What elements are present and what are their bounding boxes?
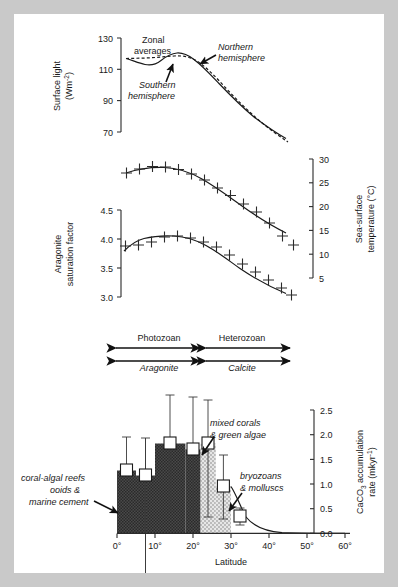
aragonite-axis bbox=[117, 210, 121, 297]
carbonate-ticklabel-15: 1.5 bbox=[320, 455, 333, 465]
carbonate-ticklabel-20: 2.0 bbox=[320, 430, 333, 440]
light-axis-title-line1: Surface light bbox=[52, 60, 62, 111]
light-axis-title-line2: (Wm-2) bbox=[63, 72, 74, 100]
carbonate-xlabel-40: 40° bbox=[262, 541, 276, 551]
band-label-aragonite: Aragonite bbox=[139, 363, 179, 373]
annot-zonal-line2: averages bbox=[134, 46, 172, 56]
carbonate-xlabel-0: 0° bbox=[113, 541, 122, 551]
annot-bryo-line1: bryozoans bbox=[240, 471, 282, 481]
marker-10-18 bbox=[164, 437, 176, 449]
carbonate-ticklabel-00: 0.0 bbox=[320, 529, 333, 539]
sst-ticklabel-25: 25 bbox=[319, 178, 329, 188]
figure-frame: 130 110 90 70 Surface light (Wm-2) Zonal… bbox=[14, 14, 384, 573]
figure-svg: 130 110 90 70 Surface light (Wm-2) Zonal… bbox=[14, 14, 384, 573]
marker-5-10 bbox=[140, 469, 152, 481]
carbonate-y-axis bbox=[310, 410, 314, 533]
panel-carbonate: 0° 10° 20° 30° 40° 50° 60° Latitude 2.5 … bbox=[21, 395, 377, 573]
sst-ticklabel-15: 15 bbox=[319, 226, 329, 236]
light-axis bbox=[117, 38, 121, 132]
aragonite-ticklabel-45: 4.5 bbox=[100, 206, 113, 216]
sst-axis-title-line1: Sea-surface bbox=[354, 195, 364, 244]
carbonate-ticklabel-05: 0.5 bbox=[320, 504, 333, 514]
carbonate-y-axis-title: CaCO3 accumulation rate (mkyr-1) bbox=[355, 430, 377, 514]
carbonate-y-axis-title-line2: rate (mkyr-1) bbox=[366, 447, 377, 496]
marker-30-35 bbox=[234, 510, 246, 522]
sst-curve bbox=[126, 167, 286, 233]
marker-0-5 bbox=[121, 464, 133, 476]
band-label-heterozoan: Heterozoan bbox=[219, 333, 266, 343]
annot-zonal-line1: Zonal bbox=[142, 35, 165, 45]
annot-northern-line1: Northern bbox=[218, 42, 253, 52]
carbonate-xlabel-30: 30° bbox=[224, 541, 238, 551]
light-ticklabel-110: 110 bbox=[99, 65, 113, 75]
carbonate-xlabel-50: 50° bbox=[300, 541, 314, 551]
aragonite-axis-title-line2: saturation factor bbox=[65, 222, 75, 287]
marker-26-30 bbox=[217, 480, 229, 492]
aragonite-markers bbox=[120, 231, 297, 301]
band-label-calcite: Calcite bbox=[228, 363, 256, 373]
annot-mixed-line2: & green algae bbox=[210, 430, 266, 440]
light-ticklabel-70: 70 bbox=[103, 128, 113, 138]
aragonite-axis-title: Aragonite saturation factor bbox=[53, 222, 75, 287]
aragonite-curve bbox=[124, 236, 286, 294]
light-ticklabel-90: 90 bbox=[103, 96, 113, 106]
aragonite-ticklabel-40: 4.0 bbox=[100, 235, 113, 245]
band-label-photozoan: Photozoan bbox=[137, 333, 180, 343]
panel-bands: Photozoan Heterozoan Aragonite Calcite bbox=[116, 333, 290, 373]
sst-ticklabel-10: 10 bbox=[319, 250, 329, 260]
sst-ticklabel-5: 5 bbox=[319, 274, 324, 284]
annot-southern-line1: Southern bbox=[139, 80, 176, 90]
carbonate-x-ticks bbox=[117, 533, 345, 538]
sst-ticklabel-30: 30 bbox=[319, 155, 329, 165]
annot-bryo-line2: & molluscs bbox=[240, 483, 284, 493]
carbonate-xlabel-60: 60° bbox=[338, 541, 352, 551]
marker-18-22 bbox=[187, 443, 199, 455]
sst-axis-title: Sea-surface temperature (°C) bbox=[354, 185, 376, 252]
aragonite-ticklabel-35: 3.5 bbox=[100, 264, 113, 274]
panel-aragonite: 4.5 4.0 3.5 3.0 Aragonite saturation fac… bbox=[53, 206, 297, 303]
sst-axis bbox=[309, 159, 313, 278]
annot-coral-line3: marine cement bbox=[29, 497, 89, 507]
carbonate-xlabel-10: 10° bbox=[148, 541, 162, 551]
carbonate-x-axis-title: Latitude bbox=[215, 557, 247, 567]
sst-axis-title-line2: temperature (°C) bbox=[366, 185, 376, 252]
panel-surface-light: 130 110 90 70 Surface light (Wm-2) Zonal… bbox=[52, 34, 288, 143]
light-ticklabel-130: 130 bbox=[98, 34, 113, 44]
carbonate-ticklabel-25: 2.5 bbox=[320, 406, 333, 416]
aragonite-axis-title-line1: Aragonite bbox=[53, 235, 63, 274]
annot-southern-line2: hemisphere bbox=[128, 91, 175, 101]
annot-coral-arrow bbox=[94, 501, 118, 513]
annot-northern-arrow bbox=[200, 55, 216, 64]
panel-sst: 30 25 20 15 10 5 Sea-surface temperature… bbox=[121, 155, 376, 284]
carbonate-y-axis-title-line1: CaCO3 accumulation bbox=[355, 430, 367, 514]
annot-northern-line2: hemisphere bbox=[218, 53, 265, 63]
annot-coral-line1: coral-algal reefs bbox=[21, 473, 86, 483]
annot-coral-line2: ooids & bbox=[50, 485, 80, 495]
carbonate-ticklabel-10: 1.0 bbox=[320, 480, 333, 490]
carbonate-bars bbox=[117, 444, 231, 534]
sst-ticklabel-20: 20 bbox=[319, 202, 329, 212]
annot-mixed-line1: mixed corals bbox=[210, 418, 261, 428]
aragonite-ticklabel-30: 3.0 bbox=[100, 293, 113, 303]
light-axis-title: Surface light (Wm-2) bbox=[52, 60, 74, 111]
carbonate-xlabel-20: 20° bbox=[186, 541, 200, 551]
